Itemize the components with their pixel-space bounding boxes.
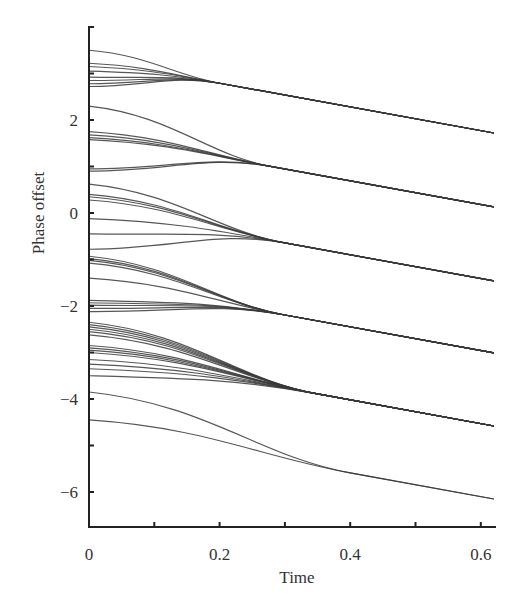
trajectory-line [89,346,494,426]
y-tick-label: −6 [60,483,78,502]
y-tick-label: −4 [60,390,79,409]
y-tick-label: −2 [60,297,78,316]
trajectory-line [89,376,494,426]
y-axis-title: Phase offset [29,172,48,255]
trajectory-line [89,80,494,133]
trajectory-line [89,359,494,425]
trajectory-line [89,79,494,133]
y-tick-label: 2 [70,111,79,130]
trajectory-line [89,67,494,133]
trajectory-line [89,364,494,426]
trajectory-line [89,50,494,133]
trajectory-line [89,305,494,353]
x-ticks: 00.20.40.6 [85,522,492,564]
x-tick-label: 0.6 [470,545,491,564]
trajectory-line [89,77,494,133]
trajectory-line [89,162,494,207]
trajectory-line [89,184,494,281]
x-tick-label: 0.4 [340,545,362,564]
x-axis-title: Time [279,568,314,587]
x-tick-label: 0.2 [209,545,230,564]
trajectory-line [89,348,494,426]
trajectory-line [89,309,494,353]
trajectory-line [89,332,494,426]
y-tick-label: 0 [70,204,79,223]
trajectory-line [89,420,494,499]
trajectory-line [89,80,494,133]
axes [88,26,496,527]
trajectory-line [89,140,494,207]
trajectory-line [89,307,494,353]
trajectory-line [89,335,494,426]
phase-offset-chart: 20−2−4−6 00.20.40.6 Time Phase offset [0,0,521,613]
trajectory-line [89,239,494,281]
trajectory-lines [89,50,494,499]
trajectory-line [89,106,494,207]
trajectory-line [89,392,494,499]
trajectory-line [89,162,494,207]
x-tick-label: 0 [85,545,94,564]
